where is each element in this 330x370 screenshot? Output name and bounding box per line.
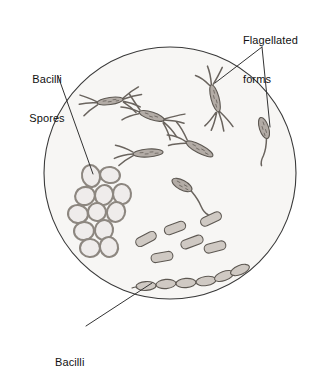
label-flagellated-forms-line2: forms xyxy=(243,73,327,86)
label-bacilli-spores: Bacilli Spores xyxy=(14,47,80,151)
label-bacilli: Bacilli xyxy=(55,330,125,370)
label-flagellated-forms: Flagellated forms xyxy=(243,8,327,112)
label-bacilli-line1: Bacilli xyxy=(55,356,125,369)
spore xyxy=(79,238,100,257)
leader-line-bacilli xyxy=(86,283,152,326)
label-bacilli-spores-line2: Spores xyxy=(14,112,80,125)
label-bacilli-spores-line1: Bacilli xyxy=(14,73,80,86)
label-flagellated-forms-line1: Flagellated xyxy=(243,34,327,47)
